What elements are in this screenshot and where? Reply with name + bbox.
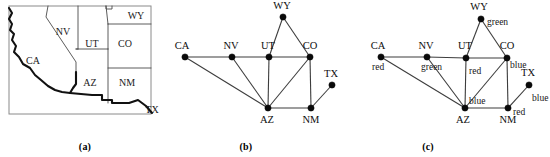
node-label-nv: NV: [418, 40, 434, 51]
graph-panel: CANVUTWYCOTXAZNM (b): [170, 0, 350, 157]
graph-edge-nv-az: [232, 57, 268, 108]
graph-edge-ut-wy: [269, 17, 283, 57]
color-label-tx: blue: [532, 93, 548, 103]
graph-edge-ut-wy: [466, 19, 481, 58]
graph-edge-ca-az: [185, 57, 268, 108]
map-label-nm: NM: [119, 77, 135, 88]
graph-edge-co-az: [268, 57, 310, 108]
figure-root: CA NV UT WY CO AZ NM TX (a) CANVUTWYCOTX…: [0, 0, 550, 157]
node-label-az: AZ: [260, 114, 274, 125]
graph-node-nv[interactable]: [424, 54, 430, 60]
caption-c: (c): [328, 141, 528, 152]
graph-node-ca[interactable]: [182, 54, 188, 60]
color-label-wy: green: [487, 17, 508, 27]
node-label-ut: UT: [261, 40, 276, 51]
color-label-ut: red: [469, 66, 481, 76]
graph-node-wy[interactable]: [478, 16, 484, 22]
node-label-nm: NM: [303, 114, 321, 125]
graph-node-ut[interactable]: [463, 55, 469, 61]
graph-edge-nm-tx: [311, 85, 332, 108]
node-label-nv: NV: [223, 40, 239, 51]
graph-edges-group: [185, 17, 332, 108]
node-label-ca: CA: [175, 40, 190, 51]
graph-node-az[interactable]: [265, 105, 271, 111]
color-label-nm: red: [513, 107, 525, 117]
color-label-ca: red: [372, 62, 384, 72]
color-label-co: blue: [510, 60, 526, 70]
graph-svg: CANVUTWYCOTXAZNM: [170, 0, 350, 128]
node-label-co: CO: [500, 40, 515, 51]
color-label-nv: green: [421, 62, 442, 72]
graph-node-nv[interactable]: [229, 54, 235, 60]
graph-node-ut[interactable]: [266, 54, 272, 60]
map-label-ut: UT: [85, 38, 98, 49]
map-label-tx: TX: [145, 104, 159, 115]
map-label-wy: WY: [128, 10, 145, 21]
coloring-edges-group: [381, 19, 529, 108]
graph-edge-wy-co: [283, 17, 310, 57]
graph-node-nm[interactable]: [505, 105, 511, 111]
coloring-svg: CANVUTWYCOTXAZNM redgreenredgreenblueblu…: [350, 0, 550, 128]
map-panel: CA NV UT WY CO AZ NM TX (a): [0, 0, 170, 157]
color-label-az: blue: [469, 96, 485, 106]
graph-node-ca[interactable]: [378, 54, 384, 60]
map-label-ca: CA: [26, 55, 41, 66]
map-label-co: CO: [118, 38, 132, 49]
caption-a: (a): [0, 141, 170, 152]
graph-node-nm[interactable]: [308, 105, 314, 111]
coloring-panel: CANVUTWYCOTXAZNM redgreenredgreenblueblu…: [350, 0, 550, 157]
graph-edge-co-nm: [507, 58, 508, 108]
graph-node-wy[interactable]: [280, 14, 286, 20]
coloring-nodes-group: [378, 16, 532, 111]
graph-edge-ut-az: [268, 57, 269, 108]
node-label-ca: CA: [371, 40, 386, 51]
node-label-tx: TX: [324, 68, 338, 79]
graph-edge-co-nm: [310, 57, 311, 108]
graph-edge-ut-az: [465, 58, 466, 108]
graph-node-tx[interactable]: [329, 82, 335, 88]
map-svg: CA NV UT WY CO AZ NM TX: [0, 0, 170, 128]
node-label-co: CO: [303, 40, 318, 51]
caption-b: (b): [156, 141, 336, 152]
graph-node-co[interactable]: [307, 54, 313, 60]
node-label-az: AZ: [456, 114, 470, 125]
graph-edge-nv-ut: [427, 57, 466, 58]
node-label-ut: UT: [458, 40, 473, 51]
node-label-wy: WY: [273, 0, 291, 11]
graph-node-tx[interactable]: [526, 82, 532, 88]
graph-nodes-group: [182, 14, 335, 111]
map-label-nv: NV: [56, 26, 71, 37]
graph-edge-nm-tx: [508, 85, 529, 108]
graph-node-az[interactable]: [462, 105, 468, 111]
node-label-wy: WY: [470, 1, 488, 12]
map-label-az: AZ: [83, 77, 96, 88]
